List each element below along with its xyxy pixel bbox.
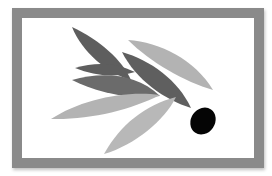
upper-left-small-leaf: [75, 64, 135, 76]
olive-branch-illustration: [0, 0, 272, 176]
olive: [185, 103, 221, 140]
